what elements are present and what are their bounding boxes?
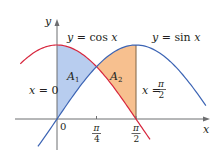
tick-label-pi-over-4: π 4 (92, 123, 101, 144)
x-axis-label: x (203, 123, 210, 136)
sin-curve-label: y = sin x (151, 31, 201, 44)
x-equals-0-label: x = 0 (29, 84, 58, 97)
area-between-curves-diagram: y x y = cos x y = sin x A1 A2 x = 0 x = … (0, 0, 216, 161)
y-axis-arrow-icon (55, 19, 60, 26)
svg-text:4: 4 (94, 134, 100, 144)
svg-text:π: π (132, 123, 140, 133)
tick-label-pi-over-2: π 2 (132, 123, 141, 144)
svg-text:π: π (157, 79, 165, 89)
svg-text:2: 2 (134, 134, 140, 144)
svg-text:π: π (93, 123, 101, 133)
svg-text:2: 2 (159, 90, 165, 100)
x-axis-arrow-icon (203, 117, 210, 122)
y-axis-label: y (44, 15, 52, 28)
cos-curve-label: y = cos x (66, 31, 118, 44)
tick-label-zero: 0 (60, 121, 66, 132)
